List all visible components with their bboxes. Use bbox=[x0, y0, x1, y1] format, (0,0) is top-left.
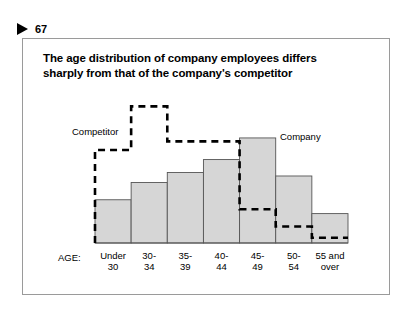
page-title-line-2: sharply from that of the company's compe… bbox=[43, 66, 373, 81]
axis-tick-line-1: 35- bbox=[178, 250, 192, 261]
series-label-company: Company bbox=[280, 132, 321, 142]
axis-tick-line-2: 30 bbox=[95, 261, 131, 272]
slide-marker: 67 bbox=[17, 23, 47, 35]
axis-tick-line-2: 34 bbox=[131, 261, 167, 272]
axis-tick-line-2: over bbox=[312, 261, 348, 272]
series-label-competitor: Competitor bbox=[72, 127, 118, 137]
axis-tick-line-1: 55 and bbox=[315, 250, 344, 261]
slide-root: 67 The age distribution of company emplo… bbox=[0, 0, 413, 309]
axis-tick-label: Under30 bbox=[95, 250, 131, 272]
axis-title: AGE: bbox=[58, 252, 81, 263]
axis-tick-label: 40-44 bbox=[203, 250, 239, 272]
axis-tick-line-1: 45- bbox=[251, 250, 265, 261]
triangle-right-icon bbox=[17, 23, 28, 35]
axis-label-row: AGE: Under3030-3435-3940-4445-4950-5455 … bbox=[0, 250, 413, 284]
axis-tick-label: 45-49 bbox=[240, 250, 276, 272]
axis-tick-label: 55 andover bbox=[312, 250, 348, 272]
axis-tick-line-1: 40- bbox=[215, 250, 229, 261]
axis-tick-line-2: 49 bbox=[240, 261, 276, 272]
axis-tick-line-1: Under bbox=[100, 250, 126, 261]
axis-tick-line-2: 39 bbox=[167, 261, 203, 272]
axis-tick-label: 50-54 bbox=[276, 250, 312, 272]
axis-tick-line-1: 50- bbox=[287, 250, 301, 261]
axis-tick-label: 30-34 bbox=[131, 250, 167, 272]
page-title: The age distribution of company employee… bbox=[43, 51, 373, 81]
slide-number: 67 bbox=[35, 24, 47, 35]
axis-tick-line-2: 54 bbox=[276, 261, 312, 272]
page-title-line-1: The age distribution of company employee… bbox=[43, 51, 373, 66]
axis-tick-line-2: 44 bbox=[203, 261, 239, 272]
axis-tick-label: 35-39 bbox=[167, 250, 203, 272]
axis-tick-line-1: 30- bbox=[142, 250, 156, 261]
